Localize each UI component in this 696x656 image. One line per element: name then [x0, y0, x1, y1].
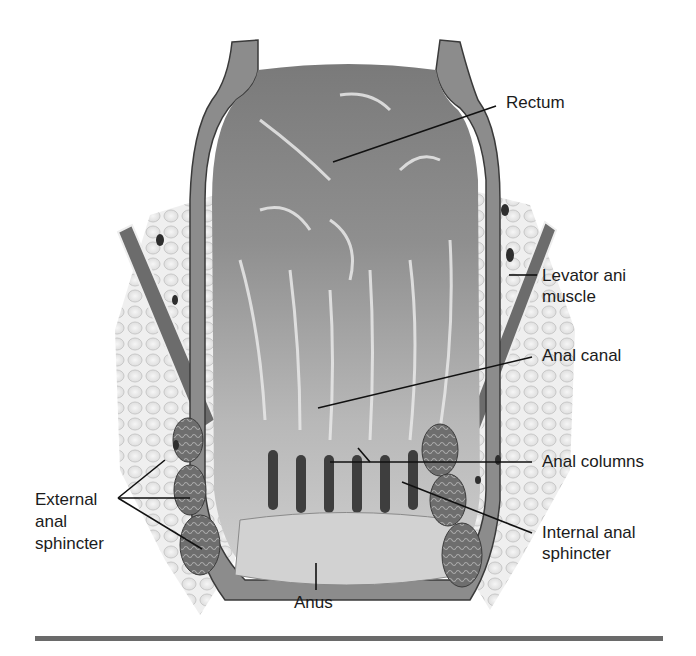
label-anal-canal: Anal canal — [542, 345, 621, 366]
label-levator-ani-line1: Levator ani — [542, 265, 626, 286]
label-internal-sphincter-line1: Internal anal — [542, 522, 636, 543]
label-levator-ani-line2: muscle — [542, 286, 596, 307]
label-external-sphincter-line1: External — [35, 489, 97, 510]
label-external-sphincter-line2: anal — [35, 511, 67, 532]
label-external-sphincter-line3: sphincter — [35, 533, 104, 554]
label-rectum: Rectum — [506, 92, 565, 113]
anal-verge — [235, 513, 460, 586]
label-anus: Anus — [294, 592, 333, 613]
anatomy-figure: Rectum Levator ani muscle Anal canal Ana… — [0, 0, 696, 656]
label-internal-sphincter-line2: sphincter — [542, 543, 611, 564]
bottom-divider-rule — [35, 636, 663, 641]
label-anal-columns: Anal columns — [542, 451, 644, 472]
